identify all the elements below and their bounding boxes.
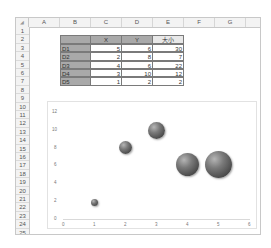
y-tick-label: 2 bbox=[54, 198, 57, 203]
column-header-f[interactable]: F bbox=[184, 18, 215, 27]
y-tick-label: 4 bbox=[54, 180, 57, 185]
table-cell-y[interactable]: 10 bbox=[121, 69, 153, 77]
row-header[interactable]: 10 bbox=[16, 103, 29, 111]
y-tick-label: 6 bbox=[54, 162, 57, 167]
table-cell-y[interactable]: 6 bbox=[121, 61, 153, 69]
x-tick-label: 6 bbox=[248, 222, 251, 227]
column-header-d[interactable]: D bbox=[122, 18, 153, 27]
column-header-bar: ◢ A B C D E F G bbox=[16, 18, 260, 28]
table-cell-x[interactable]: 3 bbox=[90, 69, 122, 77]
table-row-label[interactable]: D4 bbox=[60, 69, 91, 77]
x-tick-label: 5 bbox=[217, 222, 220, 227]
row-header-bar: 1 2 3 4 5 6 7 8 9 10 11 12 13 14 15 16 1… bbox=[16, 27, 30, 234]
row-header[interactable]: 21 bbox=[16, 195, 29, 203]
table-cell-y[interactable]: 8 bbox=[121, 52, 153, 60]
table-header-cell[interactable]: Y bbox=[121, 35, 153, 43]
table-cell-x[interactable]: 5 bbox=[90, 44, 122, 52]
table-cell-x[interactable]: 2 bbox=[90, 52, 122, 60]
table-cell-x[interactable]: 4 bbox=[90, 61, 122, 69]
column-header-c[interactable]: C bbox=[91, 18, 122, 27]
column-header-a[interactable]: A bbox=[29, 18, 60, 27]
table-row-label[interactable]: D5 bbox=[60, 77, 91, 85]
table-row-label[interactable]: D3 bbox=[60, 61, 91, 69]
column-header-g[interactable]: G bbox=[215, 18, 246, 27]
table-cell-size[interactable]: 22 bbox=[152, 61, 184, 69]
x-tick-label: 0 bbox=[62, 222, 65, 227]
row-header[interactable]: 12 bbox=[16, 119, 29, 127]
table-cell-size[interactable]: 7 bbox=[152, 52, 184, 60]
x-tick-label: 4 bbox=[186, 222, 189, 227]
table-header-cell[interactable] bbox=[60, 35, 91, 43]
table-header-cell[interactable]: X bbox=[90, 35, 122, 43]
row-header[interactable]: 2 bbox=[16, 35, 29, 43]
row-header[interactable]: 6 bbox=[16, 69, 29, 77]
row-header[interactable]: 9 bbox=[16, 94, 29, 102]
bubble-d1[interactable] bbox=[205, 151, 232, 178]
spreadsheet-grid[interactable]: ◢ A B C D E F G 1 2 3 4 5 6 7 8 9 10 11 … bbox=[15, 17, 261, 235]
column-header-b[interactable]: B bbox=[60, 18, 91, 27]
row-header[interactable]: 11 bbox=[16, 111, 29, 119]
table-cell-size[interactable]: 12 bbox=[152, 69, 184, 77]
row-header[interactable]: 16 bbox=[16, 153, 29, 161]
bubble-d4[interactable] bbox=[148, 122, 165, 139]
y-tick-label: 12 bbox=[52, 109, 57, 114]
row-header[interactable]: 1 bbox=[16, 27, 29, 35]
row-header[interactable]: 20 bbox=[16, 187, 29, 195]
select-all-corner[interactable]: ◢ bbox=[16, 18, 29, 27]
row-header[interactable]: 3 bbox=[16, 44, 29, 52]
y-tick-label: 8 bbox=[54, 145, 57, 150]
row-header[interactable]: 23 bbox=[16, 212, 29, 220]
row-header[interactable]: 24 bbox=[16, 220, 29, 228]
table-cell-x[interactable]: 1 bbox=[90, 77, 122, 85]
row-header[interactable]: 18 bbox=[16, 170, 29, 178]
row-header[interactable]: 19 bbox=[16, 178, 29, 186]
column-header-e[interactable]: E bbox=[153, 18, 184, 27]
row-header[interactable]: 15 bbox=[16, 145, 29, 153]
y-tick-label: 0 bbox=[54, 216, 57, 221]
row-header[interactable]: 22 bbox=[16, 203, 29, 211]
row-header[interactable]: 14 bbox=[16, 136, 29, 144]
row-header[interactable]: 17 bbox=[16, 161, 29, 169]
table-row-label[interactable]: D1 bbox=[60, 44, 91, 52]
table-cell-y[interactable]: 2 bbox=[121, 77, 153, 85]
bubble-chart[interactable]: 12 10 8 6 4 2 0 0 1 2 3 4 5 6 bbox=[47, 101, 257, 229]
table-cell-size[interactable]: 2 bbox=[152, 77, 184, 85]
row-header[interactable]: 13 bbox=[16, 128, 29, 136]
x-tick-label: 3 bbox=[155, 222, 158, 227]
x-axis-line bbox=[63, 219, 250, 220]
x-tick-label: 2 bbox=[124, 222, 127, 227]
row-header[interactable]: 5 bbox=[16, 61, 29, 69]
x-tick-label: 1 bbox=[93, 222, 96, 227]
table-cell-y[interactable]: 6 bbox=[121, 44, 153, 52]
table-row-label[interactable]: D2 bbox=[60, 52, 91, 60]
table-header-cell[interactable]: 大小 bbox=[152, 35, 184, 43]
row-header[interactable]: 4 bbox=[16, 52, 29, 60]
bubble-d2[interactable] bbox=[119, 141, 132, 154]
row-header[interactable]: 25 bbox=[16, 229, 29, 235]
row-header[interactable]: 8 bbox=[16, 86, 29, 94]
bubble-d5[interactable] bbox=[91, 199, 98, 206]
table-cell-size[interactable]: 30 bbox=[152, 44, 184, 52]
bubble-d3[interactable] bbox=[176, 153, 199, 176]
y-tick-label: 10 bbox=[52, 127, 57, 132]
row-header[interactable]: 7 bbox=[16, 77, 29, 85]
